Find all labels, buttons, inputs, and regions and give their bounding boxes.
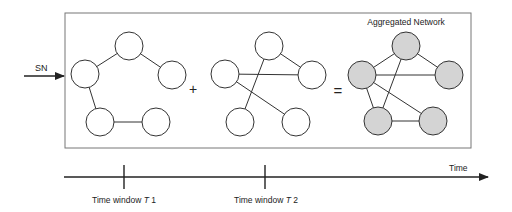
network-aggregated: [348, 32, 463, 135]
node-bottom-right: [282, 108, 310, 136]
tick-label-t2-prefix: Time window: [234, 195, 286, 205]
node-top: [392, 32, 420, 60]
node-right: [298, 61, 326, 89]
time-axis-label: Time: [449, 163, 468, 173]
node-left: [211, 60, 239, 88]
node-top: [255, 32, 283, 60]
network-t2: [211, 32, 326, 136]
aggregated-network-title: Aggregated Network: [367, 17, 445, 27]
node-top: [115, 32, 143, 60]
node-bottom-left: [86, 108, 114, 136]
node-left: [348, 61, 376, 89]
node-right: [435, 61, 463, 89]
tick-label-t2-suffix: 2: [291, 195, 298, 205]
node-left: [71, 60, 99, 88]
node-bottom-right: [419, 107, 447, 135]
node-right: [158, 61, 186, 89]
node-bottom-left: [226, 108, 254, 136]
input-label: SN: [35, 63, 48, 73]
tick-label-t2: Time window T 2: [234, 195, 298, 205]
tick-label-t1-suffix: 1: [149, 195, 156, 205]
tick-label-t1: Time window T 1: [92, 195, 156, 205]
node-bottom-right: [142, 108, 170, 136]
plus-operator: +: [189, 81, 197, 97]
aggregation-diagram: SN + = Aggregated Network Time Time wind…: [0, 0, 512, 212]
equals-operator: =: [334, 82, 343, 99]
node-bottom-left: [364, 107, 392, 135]
tick-label-t1-prefix: Time window: [92, 195, 144, 205]
network-t1: [71, 32, 186, 136]
